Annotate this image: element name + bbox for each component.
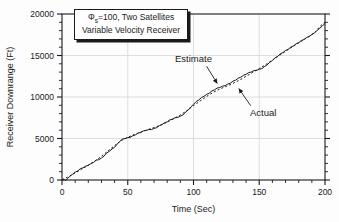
y-axis-title: Receiver Downrange (Ft): [5, 47, 15, 148]
chart-figure: 05010015020005000100001500020000Time (Se…: [0, 0, 339, 222]
title-line-2: Variable Velocity Receiver: [82, 25, 180, 36]
estimate-annotation-label: Estimate: [175, 53, 212, 64]
estimate-annotation-arrow: [207, 66, 218, 83]
x-tick-label: 100: [186, 187, 200, 197]
x-tick-label: 50: [123, 187, 133, 197]
y-tick-label: 20000: [30, 9, 54, 19]
x-tick-label: 150: [252, 187, 266, 197]
y-tick-label: 0: [49, 175, 54, 185]
title-line-1: Φs=100, Two Satellites: [82, 12, 180, 25]
x-tick-label: 0: [60, 187, 65, 197]
y-tick-label: 15000: [30, 51, 54, 61]
y-tick-label: 10000: [30, 92, 54, 102]
title-box: Φs=100, Two Satellites Variable Velocity…: [74, 9, 188, 40]
actual-annotation-label: Actual: [250, 107, 276, 118]
x-axis-title: Time (Sec): [172, 204, 216, 214]
y-tick-label: 5000: [35, 134, 54, 144]
x-tick-label: 200: [318, 187, 332, 197]
